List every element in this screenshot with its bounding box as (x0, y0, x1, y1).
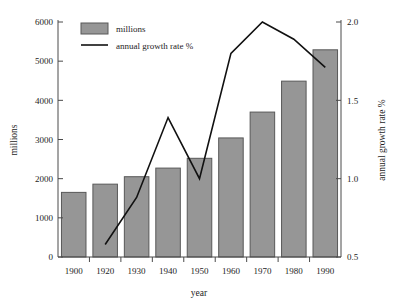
bar-1970 (250, 112, 275, 257)
left-tick-label-5000: 5000 (35, 56, 54, 66)
bar-1990 (313, 50, 338, 257)
right-tick-label-1.0: 1.0 (347, 174, 359, 184)
right-tick-label-1.5: 1.5 (347, 96, 359, 106)
legend-label-growth-rate: annual growth rate % (116, 41, 194, 51)
bar-1980 (282, 81, 307, 257)
legend-swatch-millions (81, 23, 108, 34)
left-tick-label-6000: 6000 (35, 17, 54, 27)
right-tick-label-0.5: 0.5 (347, 252, 359, 262)
x-tick-label-1900: 1900 (65, 266, 84, 276)
chart-background (0, 0, 398, 305)
x-tick-label-1930: 1930 (128, 266, 147, 276)
x-axis-tick-labels: 190019201930194019501960197019801990 (65, 266, 335, 276)
bar-1900 (61, 192, 86, 257)
left-tick-label-0: 0 (49, 252, 54, 262)
x-tick-label-1960: 1960 (222, 266, 241, 276)
bar-1930 (124, 177, 149, 257)
x-tick-label-1980: 1980 (285, 266, 304, 276)
x-tick-label-1990: 1990 (316, 266, 335, 276)
x-tick-label-1970: 1970 (253, 266, 272, 276)
left-tick-label-4000: 4000 (35, 96, 54, 106)
left-tick-label-1000: 1000 (35, 213, 54, 223)
legend-label-millions: millions (116, 24, 146, 34)
left-tick-label-3000: 3000 (35, 135, 54, 145)
bar-1920 (93, 184, 118, 257)
x-tick-label-1940: 1940 (159, 266, 178, 276)
left-axis-title: millions (9, 124, 19, 155)
right-tick-label-2.0: 2.0 (347, 17, 359, 27)
chart-canvas: 0100020003000400050006000 millions 0.51.… (0, 0, 398, 305)
left-tick-label-2000: 2000 (35, 174, 54, 184)
bar-1940 (156, 168, 181, 257)
population-growth-chart: 0100020003000400050006000 millions 0.51.… (0, 0, 398, 305)
bar-1960 (219, 138, 244, 257)
right-axis-title: annual growth rate % (377, 99, 387, 181)
x-tick-label-1950: 1950 (191, 266, 210, 276)
bar-1950 (187, 158, 212, 257)
x-axis-title: year (191, 288, 208, 298)
x-tick-label-1920: 1920 (96, 266, 115, 276)
